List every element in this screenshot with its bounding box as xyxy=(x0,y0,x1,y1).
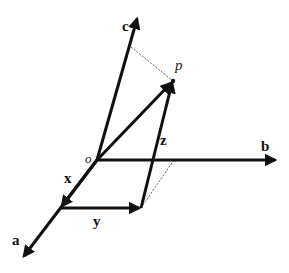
c-projection-dotted-line xyxy=(131,47,173,81)
point-p-dot xyxy=(171,79,175,83)
label-o: o xyxy=(85,151,92,166)
vector-decomposition-diagram: c p b o x y z a xyxy=(0,0,289,273)
label-y: y xyxy=(93,213,101,229)
label-p: p xyxy=(174,57,183,73)
z-component-arrow xyxy=(141,83,172,208)
label-x: x xyxy=(64,170,72,186)
label-z: z xyxy=(160,132,167,148)
label-b: b xyxy=(261,138,269,154)
label-c: c xyxy=(122,18,129,34)
label-a: a xyxy=(12,232,20,248)
